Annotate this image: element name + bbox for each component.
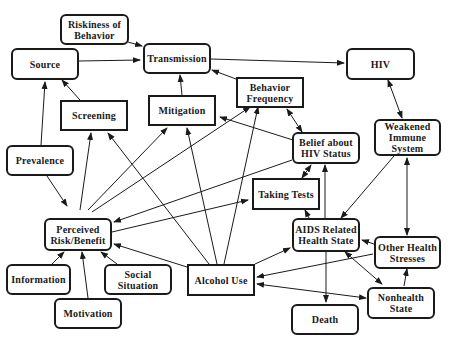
edge-alcohol-screening (108, 133, 209, 264)
node-prevalence: Prevalence (6, 145, 74, 176)
edge-nonhealth-alcohol (257, 284, 366, 298)
node-transmission: Transmission (143, 43, 211, 74)
edge-alcohol-aids (255, 248, 290, 264)
edge-prevalence-perceived (47, 176, 67, 206)
node-riskiness-of-behavior: Riskiness of Behavior (60, 14, 129, 45)
node-behavior-frequency: Behavior Frequency (236, 77, 304, 108)
node-screening: Screening (60, 100, 128, 131)
edge-hiv-weakened (388, 80, 402, 118)
node-alcohol-use: Alcohol Use (187, 264, 255, 296)
node-hiv: HIV (346, 48, 415, 80)
edge-screening-source (62, 80, 80, 100)
edge-other-aids (362, 240, 374, 244)
node-weakened-immune-system: Weakened Immune System (374, 119, 441, 156)
node-nonhealth-state: Nonhealth State (367, 287, 435, 319)
edge-weakened-aids (341, 156, 394, 218)
node-mitigation: Mitigation (148, 95, 216, 126)
node-motivation: Motivation (54, 298, 122, 329)
edge-perceived-screening (80, 133, 91, 210)
edge-belief-behavior (287, 109, 302, 132)
edge-prevalence-source (41, 82, 45, 145)
edge-nonhealth-other (404, 269, 407, 286)
edge-other-alcohol (257, 254, 373, 277)
node-death: Death (291, 304, 359, 335)
edge-perceived-mitigation (88, 128, 167, 210)
node-other-health-stresses: Other Health Stresses (374, 236, 441, 269)
edge-behavior-transmission (212, 70, 236, 79)
node-perceived-risk-benefit: Perceived Risk/Benefit (44, 218, 112, 251)
edge-transmission-hiv (211, 59, 344, 63)
edge-alcohol-mitigation (187, 128, 217, 264)
edge-motivation-perceived (82, 252, 88, 298)
edge-social-perceived (101, 252, 117, 264)
node-aids-related-health-state: AIDS Related Health State (292, 218, 360, 252)
edge-takingtests-belief (302, 165, 311, 178)
node-source: Source (11, 48, 79, 80)
node-information: Information (6, 264, 71, 295)
edge-belief-mitigation (220, 117, 293, 140)
node-social-situation: Social Situation (104, 264, 172, 295)
edge-source-transmission (79, 60, 140, 61)
edge-riskiness-transmission (128, 42, 142, 46)
edge-mitigation-transmission (180, 75, 182, 95)
node-taking-tests: Taking Tests (252, 178, 320, 210)
causal-diagram: Riskiness of Behavior Source Transmissio… (0, 0, 452, 344)
node-belief-about-hiv-status: Belief about HIV Status (292, 132, 360, 164)
edge-information-perceived (52, 252, 64, 264)
